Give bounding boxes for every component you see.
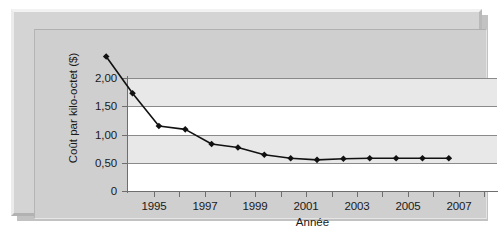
x-tick-mark (281, 192, 282, 197)
x-tick-mark (484, 192, 485, 197)
y-tick-mark (122, 163, 127, 164)
x-tick-label: 2001 (283, 200, 329, 212)
band-upper (128, 78, 497, 106)
x-axis-line (127, 191, 498, 192)
y-tick-mark (122, 135, 127, 136)
x-tick-label: 1997 (182, 200, 228, 212)
x-tick-mark (433, 192, 434, 197)
y-tick-mark (122, 191, 127, 192)
x-tick-mark (306, 192, 307, 197)
gridline-2-00 (128, 78, 497, 79)
x-tick-mark (154, 192, 155, 197)
y-tick-label: 0 (65, 185, 117, 197)
x-tick-label: 1995 (131, 200, 177, 212)
x-tick-label: 2003 (334, 200, 380, 212)
x-tick-mark (357, 192, 358, 197)
x-tick-label: 2005 (385, 200, 431, 212)
y-tick-mark (122, 78, 127, 79)
figure-root: 2,00 1,50 1,00 0,50 0 1995 1997 1999 2 (0, 0, 503, 235)
gridline-0-50 (128, 163, 497, 164)
x-tick-label: 2007 (436, 200, 482, 212)
y-axis-title: Coût par kilo-octet ($) (67, 43, 79, 173)
picture-frame-border: 2,00 1,50 1,00 0,50 0 1995 1997 1999 2 (11, 9, 482, 216)
x-tick-mark (179, 192, 180, 197)
x-tick-mark (332, 192, 333, 197)
y-axis-line (127, 76, 128, 193)
x-axis-title: Année (128, 216, 497, 228)
gridline-1-50 (128, 106, 497, 107)
x-tick-mark (382, 192, 383, 197)
chart-panel: 2,00 1,50 1,00 0,50 0 1995 1997 1999 2 (34, 29, 487, 219)
x-tick-mark (459, 192, 460, 197)
x-tick-mark (205, 192, 206, 197)
x-tick-mark (230, 192, 231, 197)
x-tick-label: 1999 (232, 200, 278, 212)
gridline-1-00 (128, 135, 497, 136)
band-middle (128, 135, 497, 163)
x-tick-mark (408, 192, 409, 197)
x-tick-mark (255, 192, 256, 197)
y-tick-mark (122, 106, 127, 107)
